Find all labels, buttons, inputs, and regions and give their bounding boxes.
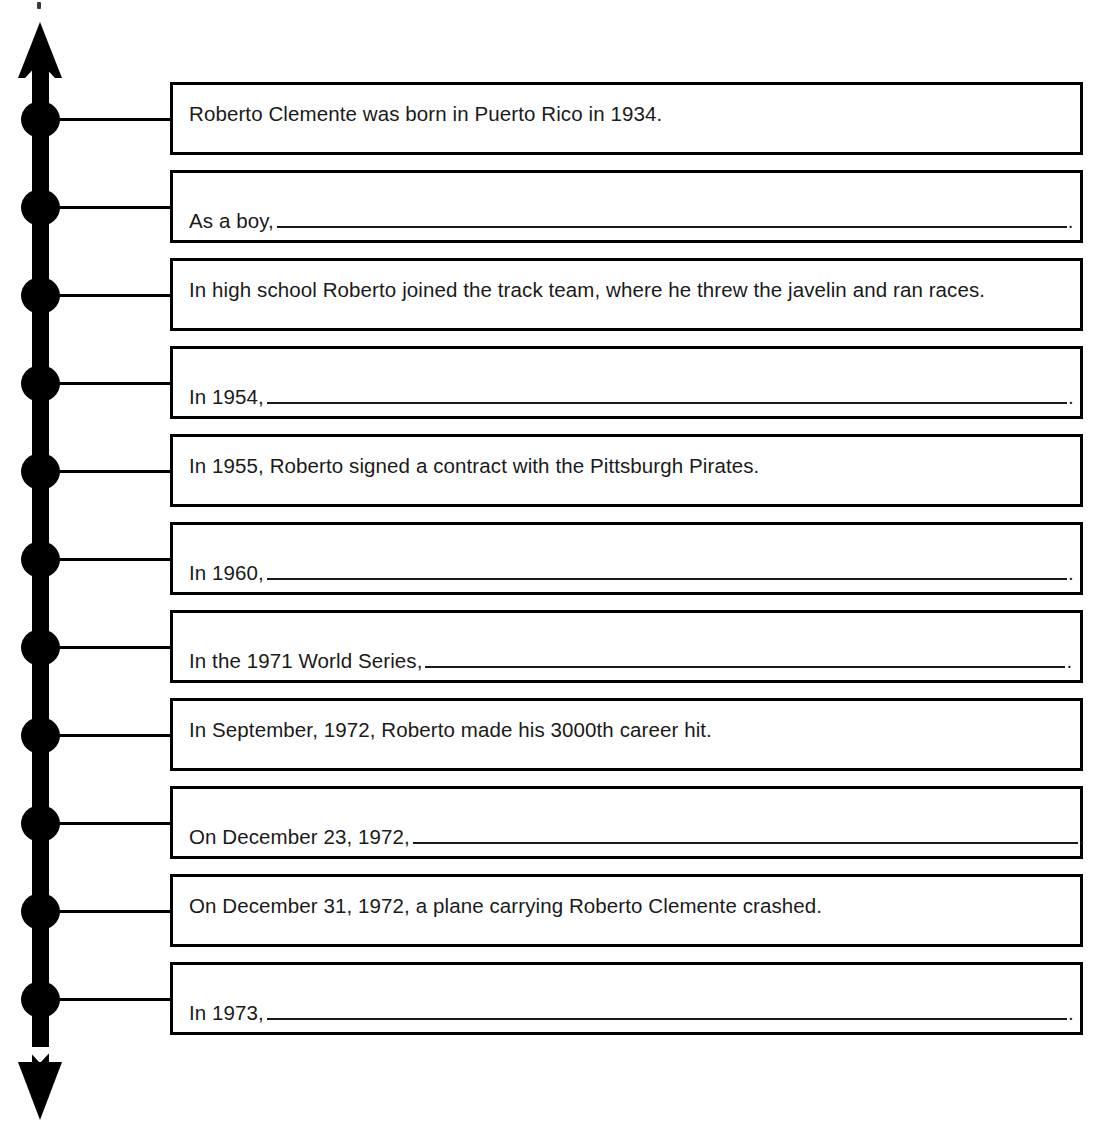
fill-in-blank-field[interactable]: . [264, 561, 1074, 584]
event-prompt-text: On December 23, 1972, [189, 825, 410, 848]
event-prompt-line: In 1973,. [189, 1001, 1066, 1025]
event-sentence: In September, 1972, Roberto made his 300… [189, 718, 1066, 742]
blank-rule[interactable] [267, 563, 1067, 580]
blank-rule[interactable] [267, 387, 1067, 404]
timeline-event-box[interactable]: In the 1971 World Series,. [170, 610, 1083, 683]
fill-in-blank-field[interactable]: . [264, 385, 1074, 408]
arrow-down-notch [25, 1047, 55, 1063]
timeline-connector-line [52, 558, 174, 561]
timeline-connector-line [52, 118, 174, 121]
fill-in-blank-field[interactable]: . [410, 825, 1085, 848]
timeline-connector-line [52, 382, 174, 385]
blank-terminator: . [1079, 825, 1085, 848]
worksheet-page: Roberto Clemente was born in Puerto Rico… [0, 0, 1110, 1144]
timeline-connector-line [52, 998, 174, 1001]
event-sentence: In high school Roberto joined the track … [189, 278, 1066, 302]
fill-in-blank-field[interactable]: . [274, 209, 1074, 232]
fill-in-blank-field[interactable]: . [264, 1001, 1074, 1024]
timeline-connector-line [52, 646, 174, 649]
timeline-connector-line [52, 206, 174, 209]
timeline-connector-line [52, 470, 174, 473]
timeline-event-box[interactable]: In 1954,. [170, 346, 1083, 419]
event-prompt-line: In 1960,. [189, 561, 1066, 585]
blank-rule[interactable] [413, 827, 1078, 844]
timeline-connector-line [52, 822, 174, 825]
event-prompt-text: In 1954, [189, 385, 264, 408]
timeline-event-box[interactable]: In September, 1972, Roberto made his 300… [170, 698, 1083, 771]
timeline-event-box[interactable]: In 1955, Roberto signed a contract with … [170, 434, 1083, 507]
timeline-event-box[interactable]: Roberto Clemente was born in Puerto Rico… [170, 82, 1083, 155]
timeline-connector-line [52, 910, 174, 913]
timeline-connector-line [52, 294, 174, 297]
timeline-event-box[interactable]: As a boy,. [170, 170, 1083, 243]
timeline-event-box[interactable]: In high school Roberto joined the track … [170, 258, 1083, 331]
blank-terminator: . [1068, 385, 1074, 408]
event-sentence: On December 31, 1972, a plane carrying R… [189, 894, 1066, 918]
fill-in-blank-field[interactable]: . [422, 649, 1072, 672]
event-prompt-line: In the 1971 World Series,. [189, 649, 1066, 673]
event-prompt-text: As a boy, [189, 209, 274, 232]
timeline-event-box[interactable]: On December 23, 1972,. [170, 786, 1083, 859]
blank-rule[interactable] [425, 651, 1065, 668]
event-sentence: Roberto Clemente was born in Puerto Rico… [189, 102, 1066, 126]
timeline-event-box[interactable]: On December 31, 1972, a plane carrying R… [170, 874, 1083, 947]
blank-rule[interactable] [277, 211, 1067, 228]
blank-terminator: . [1068, 209, 1074, 232]
blank-rule[interactable] [267, 1003, 1067, 1020]
blank-terminator: . [1068, 1001, 1074, 1024]
timeline-event-box[interactable]: In 1960,. [170, 522, 1083, 595]
event-prompt-text: In the 1971 World Series, [189, 649, 422, 672]
event-prompt-text: In 1973, [189, 1001, 264, 1024]
event-prompt-text: In 1960, [189, 561, 264, 584]
blank-terminator: . [1066, 649, 1072, 672]
arrow-down-icon [18, 1062, 62, 1120]
event-sentence: In 1955, Roberto signed a contract with … [189, 454, 1066, 478]
timeline-event-box[interactable]: In 1973,. [170, 962, 1083, 1035]
blank-terminator: . [1068, 561, 1074, 584]
event-prompt-line: As a boy,. [189, 209, 1066, 233]
timeline-connector-line [52, 734, 174, 737]
event-prompt-line: On December 23, 1972,. [189, 825, 1066, 849]
event-prompt-line: In 1954,. [189, 385, 1066, 409]
timeline-axis [0, 0, 120, 1144]
